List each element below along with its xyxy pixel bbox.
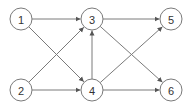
node-3: 3 <box>81 8 103 30</box>
node-label: 3 <box>89 14 95 26</box>
directed-graph: 123456 <box>0 0 193 109</box>
node-5: 5 <box>160 8 182 30</box>
node-label: 5 <box>168 14 174 26</box>
node-label: 6 <box>168 85 174 97</box>
nodes-group: 123456 <box>10 8 182 101</box>
node-1: 1 <box>10 8 32 30</box>
node-4: 4 <box>81 79 103 101</box>
node-label: 1 <box>18 14 24 26</box>
node-label: 2 <box>18 85 24 97</box>
node-2: 2 <box>10 79 32 101</box>
node-6: 6 <box>160 79 182 101</box>
node-label: 4 <box>89 85 95 97</box>
